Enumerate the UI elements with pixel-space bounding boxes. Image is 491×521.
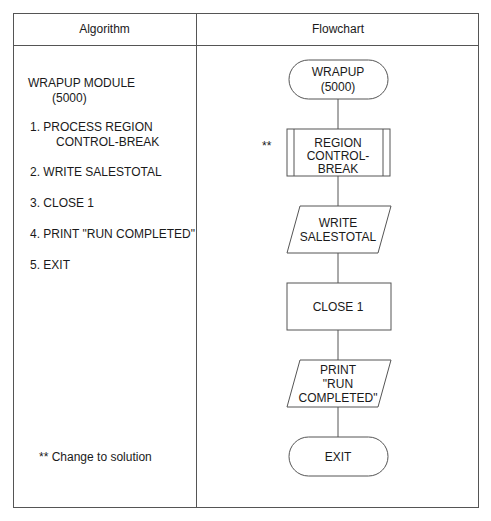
node-text: COMPLETED"	[299, 391, 378, 405]
node-text: CONTROL-	[307, 149, 370, 163]
node-text: WRAPUP	[312, 65, 365, 79]
node-text: EXIT	[325, 450, 352, 464]
node-text: REGION	[314, 136, 361, 150]
node-text: (5000)	[321, 80, 356, 94]
node-text: SALESTOTAL	[300, 230, 377, 244]
change-marker: **	[262, 139, 272, 153]
node-text: WRITE	[319, 216, 358, 230]
node-text: PRINT	[320, 363, 357, 377]
node-text: BREAK	[318, 162, 359, 176]
node-text: "RUN	[323, 377, 353, 391]
flowchart-diagram: WRAPUP (5000) ** REGION CONTROL- BREAK W…	[0, 0, 491, 521]
node-text: CLOSE 1	[313, 300, 364, 314]
